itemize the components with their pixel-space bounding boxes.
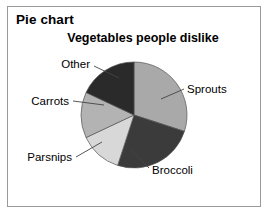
pie-label-broccoli: Broccoli [152, 164, 193, 176]
pie-slices [81, 62, 187, 168]
pie-label-parsnips: Parsnips [27, 151, 72, 163]
pie-label-carrots: Carrots [31, 95, 69, 107]
pie-chart-svg: Sprouts Broccoli Parsnips Carrots Other [0, 0, 268, 215]
pie-label-sprouts: Sprouts [187, 83, 227, 95]
pie-chart-panel: Pie chart Vegetables people dislike Spro… [0, 0, 268, 215]
pie-label-other: Other [61, 58, 90, 70]
pie-chart-figure: Sprouts Broccoli Parsnips Carrots Other [0, 0, 268, 215]
